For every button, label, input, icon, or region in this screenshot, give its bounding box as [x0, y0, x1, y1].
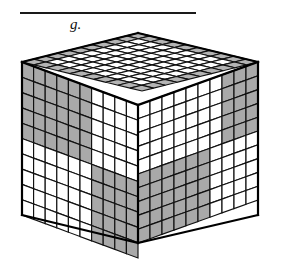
- figure-root: g.: [0, 0, 282, 260]
- cube-right-face: [138, 62, 258, 243]
- cube-diagram: [0, 0, 282, 260]
